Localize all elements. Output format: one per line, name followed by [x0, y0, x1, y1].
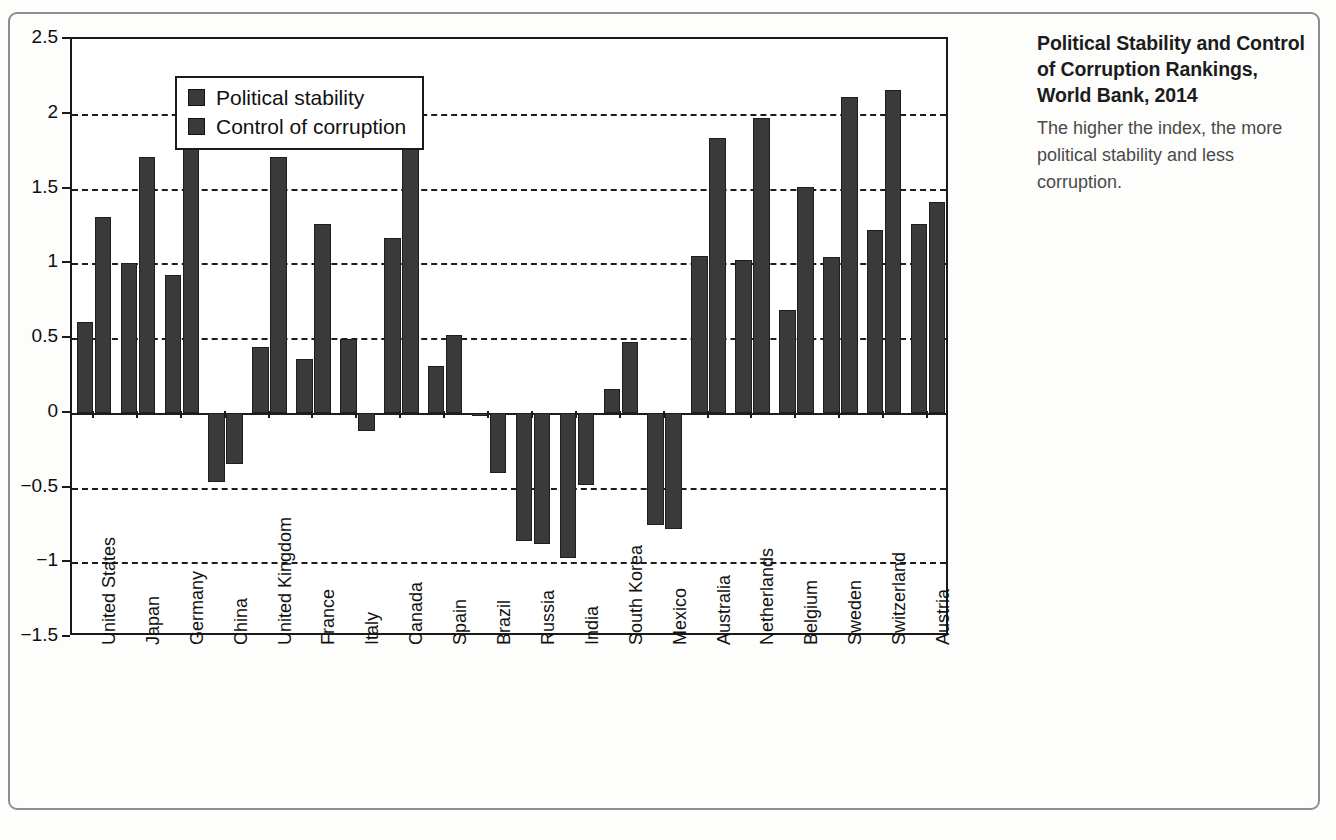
y-axis-tick-mark: [62, 336, 70, 338]
bar: [709, 138, 726, 413]
x-axis-tick-label: Netherlands: [757, 548, 778, 645]
x-axis-tick-label: Sweden: [845, 580, 866, 645]
x-axis-tick-mark: [443, 411, 445, 418]
bar: [691, 256, 708, 413]
figure-caption: Political Stability and Control of Corru…: [1037, 30, 1305, 196]
x-axis-tick-mark: [794, 411, 796, 418]
x-axis-tick-mark: [180, 411, 182, 418]
x-axis-tick-mark: [268, 411, 270, 418]
bar: [402, 144, 419, 413]
x-axis-tick-label: Austria: [933, 589, 954, 645]
bar: [534, 413, 551, 545]
y-axis-tick-label: −0.5: [0, 475, 58, 497]
legend-label: Political stability: [216, 87, 364, 108]
bar: [560, 413, 577, 558]
bar: [252, 347, 269, 413]
bar: [472, 413, 489, 416]
x-axis-tick-label: Spain: [450, 599, 471, 645]
x-axis-tick-label: Brazil: [494, 600, 515, 645]
x-axis-tick-label: France: [318, 589, 339, 645]
x-axis-tick-label: Germany: [187, 571, 208, 645]
x-axis-tick-label: Japan: [143, 596, 164, 645]
bar: [841, 97, 858, 412]
bar: [428, 366, 445, 412]
caption-body: The higher the index, the more political…: [1037, 115, 1305, 196]
bar: [296, 359, 313, 413]
y-axis-tick-label: −1: [0, 549, 58, 571]
x-axis-tick-label: Italy: [362, 612, 383, 645]
bar: [77, 322, 94, 413]
y-axis-tick-label: 1.5: [0, 176, 58, 198]
bar: [208, 413, 225, 482]
caption-title: Political Stability and Control of Corru…: [1037, 30, 1305, 108]
y-axis-tick-mark: [62, 261, 70, 263]
bar: [665, 413, 682, 530]
x-axis-tick-mark: [926, 411, 928, 418]
legend-label: Control of corruption: [216, 116, 406, 137]
x-axis-tick-label: Mexico: [670, 588, 691, 645]
x-axis-tick-mark: [531, 411, 533, 418]
bar: [270, 157, 287, 413]
bar: [604, 389, 621, 413]
bar: [735, 260, 752, 412]
y-axis-tick-mark: [62, 560, 70, 562]
bar: [867, 230, 884, 412]
legend-item-control-of-corruption: Control of corruption: [188, 112, 406, 141]
x-axis-tick-mark: [399, 411, 401, 418]
bar: [797, 187, 814, 413]
x-axis-tick-label: South Korea: [626, 545, 647, 645]
bar: [340, 339, 357, 412]
y-axis-tick-label: 0.5: [0, 325, 58, 347]
bar: [226, 413, 243, 464]
y-axis-tick-label: 0: [0, 400, 58, 422]
y-axis-tick-label: 2.5: [0, 26, 58, 48]
y-axis-tick-mark: [62, 187, 70, 189]
x-axis-tick-mark: [882, 411, 884, 418]
x-axis-tick-label: India: [582, 606, 603, 645]
x-axis-tick-label: China: [231, 598, 252, 645]
x-axis-tick-label: Belgium: [801, 580, 822, 645]
x-axis-tick-mark: [311, 411, 313, 418]
legend-swatch-icon: [188, 89, 205, 106]
y-axis-tick-mark: [62, 411, 70, 413]
y-axis-tick-mark: [62, 635, 70, 637]
bar: [446, 335, 463, 413]
bar: [183, 142, 200, 413]
legend-swatch-icon: [188, 118, 205, 135]
x-axis-tick-mark: [487, 411, 489, 418]
bar: [929, 202, 946, 413]
x-axis-tick-mark: [838, 411, 840, 418]
chart-legend: Political stability Control of corruptio…: [175, 76, 424, 150]
page-background: FIGURE 13.1 Political Stability and Cont…: [0, 0, 1336, 840]
bar: [95, 217, 112, 413]
x-axis-tick-mark: [707, 411, 709, 418]
y-axis-tick-label: 1: [0, 250, 58, 272]
x-axis-tick-mark: [224, 411, 226, 418]
bar: [165, 275, 182, 413]
bar: [358, 413, 375, 431]
bar: [779, 310, 796, 413]
x-axis-tick-mark: [355, 411, 357, 418]
bar: [314, 224, 331, 412]
x-axis-tick-label: Switzerland: [889, 552, 910, 645]
bar: [911, 224, 928, 412]
bar-chart: Indicator Value 2.521.510.50−0.5−1−1.5 P…: [8, 12, 1008, 810]
y-axis-tick-mark: [62, 37, 70, 39]
bar: [622, 342, 639, 412]
bar: [578, 413, 595, 485]
x-axis-tick-mark: [663, 411, 665, 418]
x-axis-tick-label: United Kingdom: [275, 517, 296, 645]
bar: [885, 90, 902, 413]
x-axis-tick-label: Australia: [714, 575, 735, 645]
x-axis-tick-mark: [92, 411, 94, 418]
bar: [647, 413, 664, 525]
x-axis-tick-label: Russia: [538, 590, 559, 645]
y-axis-tick-mark: [62, 486, 70, 488]
x-axis-tick-mark: [619, 411, 621, 418]
legend-item-political-stability: Political stability: [188, 83, 406, 112]
bar: [490, 413, 507, 473]
y-axis-tick-label: 2: [0, 101, 58, 123]
bar: [516, 413, 533, 542]
x-axis-tick-mark: [750, 411, 752, 418]
bar: [823, 257, 840, 412]
